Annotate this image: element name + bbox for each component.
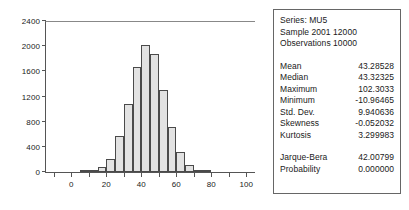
stat-value: 42.00799 xyxy=(358,152,394,164)
histogram-bar xyxy=(176,152,185,172)
x-axis-tick xyxy=(229,173,230,177)
stats-sample-line: Sample 2001 12000 xyxy=(280,27,394,39)
stats-normality-test-list: Jarque-Bera42.00799Probability0.000000 xyxy=(280,152,394,175)
y-axis-tick-label: 2000 xyxy=(22,42,40,51)
stat-row: Kurtosis3.299983 xyxy=(280,130,394,142)
x-axis-tick xyxy=(141,173,142,177)
stat-row: Maximum102.3033 xyxy=(280,84,394,96)
x-axis-tick-label: 60 xyxy=(172,180,181,189)
stat-value: -0.052032 xyxy=(355,118,394,130)
x-axis-tick xyxy=(211,173,212,177)
x-axis-tick xyxy=(159,173,160,177)
x-axis-tick-label: 0 xyxy=(69,180,74,189)
stats-series-line: Series: MU5 xyxy=(280,15,394,27)
stat-value: 9.940636 xyxy=(358,107,394,119)
y-axis-tick-label: 0 xyxy=(35,168,40,177)
stat-row: Std. Dev.9.940636 xyxy=(280,107,394,119)
stat-row: Jarque-Bera42.00799 xyxy=(280,152,394,164)
x-axis-tick xyxy=(71,173,72,177)
stat-label: Skewness xyxy=(280,118,319,130)
stat-label: Median xyxy=(280,72,308,84)
histogram-bar xyxy=(115,136,124,172)
histogram-bar xyxy=(150,54,159,172)
stat-label: Jarque-Bera xyxy=(280,152,327,164)
x-axis: 020406080100 xyxy=(45,172,255,173)
x-axis-tick-label: 100 xyxy=(239,180,253,189)
x-axis-tick xyxy=(176,173,177,177)
stat-row: Median43.32325 xyxy=(280,72,394,84)
stat-value: 102.3033 xyxy=(358,84,394,96)
histogram-chart-panel: 04008001200160020002400 020406080100 xyxy=(0,0,258,210)
stat-value: -10.96465 xyxy=(355,95,394,107)
y-axis-tick-label: 1200 xyxy=(22,92,40,101)
stats-moments-list: Mean43.28528Median43.32325Maximum102.303… xyxy=(280,61,394,142)
stat-value: 3.299983 xyxy=(358,130,394,142)
stats-header: Series: MU5 Sample 2001 12000 Observatio… xyxy=(280,15,394,50)
stat-value: 43.32325 xyxy=(358,72,394,84)
y-axis-tick-label: 2400 xyxy=(22,17,40,26)
x-axis-tick xyxy=(106,173,107,177)
x-axis-tick xyxy=(124,173,125,177)
stat-label: Minimum xyxy=(280,95,315,107)
histogram-bar xyxy=(133,67,142,172)
stat-value: 0.000000 xyxy=(358,164,394,176)
histogram-bar xyxy=(124,104,133,172)
y-axis-tick-label: 800 xyxy=(26,117,40,126)
histogram-bar xyxy=(168,127,177,172)
stat-label: Maximum xyxy=(280,84,317,96)
x-axis-tick xyxy=(54,173,55,177)
y-axis-tick-label: 400 xyxy=(26,142,40,151)
stats-observations-line: Observations 10000 xyxy=(280,38,394,50)
histogram-bar xyxy=(159,90,168,172)
stat-label: Kurtosis xyxy=(280,130,311,142)
y-axis-tick-label: 1600 xyxy=(22,67,40,76)
histogram-bar xyxy=(185,165,194,172)
stats-spacer-bottom xyxy=(280,141,394,152)
stat-label: Mean xyxy=(280,61,301,73)
stat-value: 43.28528 xyxy=(358,61,394,73)
histogram-bars xyxy=(45,21,255,172)
statistics-panel: Series: MU5 Sample 2001 12000 Observatio… xyxy=(273,9,401,194)
stat-label: Probability xyxy=(280,164,320,176)
histogram-bar xyxy=(141,45,150,172)
histogram-bar xyxy=(106,159,115,172)
stat-label: Std. Dev. xyxy=(280,107,315,119)
x-axis-tick-label: 20 xyxy=(102,180,111,189)
x-axis-tick xyxy=(89,173,90,177)
stat-row: Mean43.28528 xyxy=(280,61,394,73)
stat-row: Skewness-0.052032 xyxy=(280,118,394,130)
stat-row: Probability0.000000 xyxy=(280,164,394,176)
x-axis-tick-label: 80 xyxy=(207,180,216,189)
stats-spacer-top xyxy=(280,50,394,61)
stat-row: Minimum-10.96465 xyxy=(280,95,394,107)
x-axis-tick xyxy=(194,173,195,177)
x-axis-tick xyxy=(246,173,247,177)
x-axis-tick-label: 40 xyxy=(137,180,146,189)
